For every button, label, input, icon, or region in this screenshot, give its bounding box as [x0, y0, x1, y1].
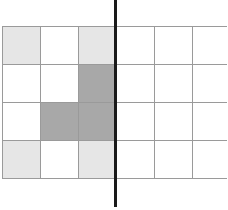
grid-cell-r0-c0 — [2, 26, 41, 65]
grid-cell-r2-c1 — [40, 102, 79, 141]
mirror-line — [114, 0, 117, 207]
grid-cell-r2-c5 — [192, 102, 228, 141]
grid-cell-r3-c0 — [2, 140, 41, 179]
grid-cell-r0-c1 — [40, 26, 79, 65]
grid-cell-r1-c0 — [2, 64, 41, 103]
grid-cell-r1-c4 — [154, 64, 193, 103]
grid-cell-r0-c5 — [192, 26, 228, 65]
grid-cell-r2-c4 — [154, 102, 193, 141]
grid-cell-r3-c3 — [116, 140, 155, 179]
grid-cell-r2-c3 — [116, 102, 155, 141]
grid-cell-r1-c2 — [78, 64, 117, 103]
grid-cell-r3-c2 — [78, 140, 117, 179]
grid-cell-r1-c1 — [40, 64, 79, 103]
grid-cell-r1-c3 — [116, 64, 155, 103]
grid-cell-r1-c5 — [192, 64, 228, 103]
grid-cell-r2-c0 — [2, 102, 41, 141]
grid-cell-r3-c1 — [40, 140, 79, 179]
grid-cell-r0-c2 — [78, 26, 117, 65]
grid-cell-r0-c3 — [116, 26, 155, 65]
grid-cell-r3-c5 — [192, 140, 228, 179]
grid-cell-r0-c4 — [154, 26, 193, 65]
grid-cell-r3-c4 — [154, 140, 193, 179]
grid-cell-r2-c2 — [78, 102, 117, 141]
